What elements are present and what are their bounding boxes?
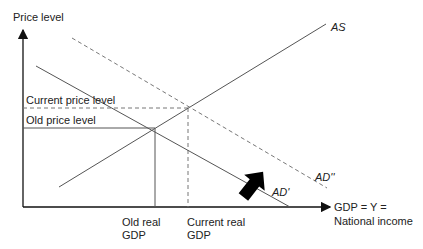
- ad-old-label: AD': [272, 186, 289, 199]
- shift-arrow-icon: [233, 164, 273, 205]
- as-label: AS: [331, 21, 346, 34]
- ad-new-label: AD'': [315, 171, 334, 184]
- x-axis-label-line2: National income: [334, 215, 413, 228]
- y-axis-label: Price level: [13, 11, 64, 24]
- x-axis-label-line1: GDP = Y =: [334, 201, 387, 214]
- old-gdp-label-line2: GDP: [122, 229, 146, 242]
- old-gdp-label-line1: Old real: [122, 216, 161, 229]
- current-gdp-label-line1: Current real: [187, 216, 245, 229]
- ad-new-curve: [72, 38, 327, 188]
- ad-as-diagram: Price level AS Current price level Old p…: [0, 0, 423, 249]
- current-price-label: Current price level: [26, 94, 115, 107]
- old-price-label: Old price level: [26, 114, 96, 127]
- current-gdp-label-line2: GDP: [187, 229, 211, 242]
